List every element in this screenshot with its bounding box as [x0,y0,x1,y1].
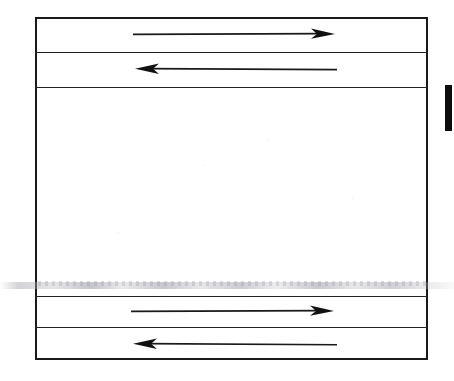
arrow-right-1-icon [133,27,335,41]
paper-speckle [352,198,353,199]
arrow-left-1-icon [129,62,337,76]
scanned-page [0,0,454,381]
divider-3 [35,296,428,297]
paper-speckle [268,139,269,140]
paper-speckle [118,232,119,233]
arrow-left-2-icon [127,337,337,351]
divider-4 [35,327,428,328]
divider-1 [35,52,428,53]
paper-speckle [204,165,205,166]
scan-edge-bar [445,85,452,131]
arrow-right-2-icon [131,304,334,318]
divider-2 [35,87,428,88]
